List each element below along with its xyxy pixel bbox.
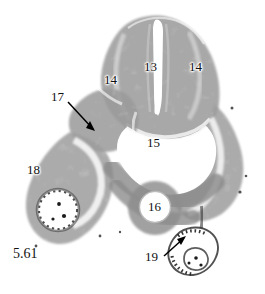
figure-number: 5.61 xyxy=(13,247,38,261)
label-14-right: 14 xyxy=(189,60,202,73)
label-18: 18 xyxy=(27,163,40,176)
figure-panel: 13 14 14 15 16 17 18 19 5.61 xyxy=(0,0,265,294)
micrograph-image xyxy=(0,0,265,294)
label-15: 15 xyxy=(147,136,160,149)
label-17: 17 xyxy=(51,90,64,103)
vesicle-lower-left xyxy=(37,189,79,231)
label-19: 19 xyxy=(145,250,158,263)
label-13: 13 xyxy=(144,60,157,73)
label-14-left: 14 xyxy=(104,73,117,86)
label-16: 16 xyxy=(148,200,161,213)
